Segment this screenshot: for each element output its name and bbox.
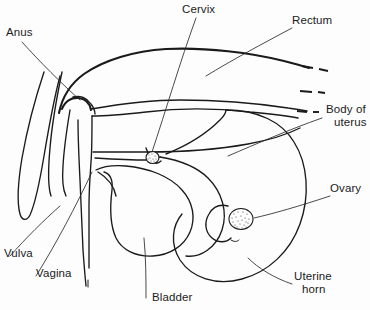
leader-line-rectum <box>206 28 292 76</box>
label-vulva: Vulva <box>4 247 33 260</box>
label-body-of-uterus-line1: Body of <box>326 103 366 116</box>
label-uterine-horn-line2: horn <box>302 283 325 296</box>
cut-edge-marks <box>297 66 328 112</box>
label-vagina: Vagina <box>36 267 72 280</box>
uterine-horn-outline <box>160 110 306 282</box>
leader-line-uterine-horn <box>248 258 292 284</box>
vulva-outline <box>18 72 70 219</box>
cervix-outline <box>146 148 161 164</box>
leader-line-bladder <box>144 238 146 298</box>
leader-line-anus <box>22 42 80 100</box>
vagina-outline <box>78 116 92 287</box>
anatomical-diagram: Anus Cervix Rectum Body of uterus Ovary … <box>0 0 370 310</box>
ovary-outline <box>229 209 253 230</box>
body-of-uterus-outline <box>92 109 300 160</box>
leader-line-ovary <box>254 196 330 218</box>
anatomy-illustration <box>0 0 370 310</box>
label-ovary: Ovary <box>330 182 361 195</box>
label-bladder: Bladder <box>152 291 192 304</box>
label-cervix: Cervix <box>182 3 215 16</box>
leader-line-cervix <box>152 18 196 152</box>
label-anus: Anus <box>6 26 33 39</box>
label-rectum: Rectum <box>292 14 332 27</box>
label-body-of-uterus-line2: uterus <box>334 116 367 129</box>
label-uterine-horn-line1: Uterine <box>294 270 332 283</box>
rectum-outline <box>59 49 309 113</box>
